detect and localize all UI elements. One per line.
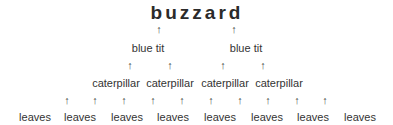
arrow-up-icon: ↑ [237, 95, 243, 106]
node-leaves: leaves [344, 111, 376, 123]
arrow-up-icon: ↑ [64, 95, 70, 106]
arrow-up-icon: ↑ [92, 95, 98, 106]
arrow-up-icon: ↑ [167, 60, 173, 71]
arrow-up-icon: ↑ [220, 60, 226, 71]
node-leaves: leaves [204, 111, 236, 123]
node-caterpillar: caterpillar [146, 77, 194, 89]
arrow-up-icon: ↑ [121, 95, 127, 106]
node-blue-tit: blue tit [132, 42, 164, 54]
arrow-up-icon: ↑ [294, 95, 300, 106]
arrow-up-icon: ↑ [265, 95, 271, 106]
node-leaves: leaves [157, 111, 189, 123]
arrow-up-icon: ↑ [150, 95, 156, 106]
arrow-up-icon: ↑ [231, 24, 237, 35]
arrow-up-icon: ↑ [322, 95, 328, 106]
arrow-up-icon: ↑ [156, 24, 162, 35]
arrow-up-icon: ↑ [179, 95, 185, 106]
arrow-up-icon: ↑ [127, 60, 133, 71]
arrow-up-icon: ↑ [260, 60, 266, 71]
arrow-up-icon: ↑ [208, 95, 214, 106]
node-caterpillar: caterpillar [201, 77, 249, 89]
node-leaves: leaves [251, 111, 283, 123]
node-blue-tit: blue tit [230, 42, 262, 54]
node-leaves: leaves [64, 111, 96, 123]
node-leaves: leaves [19, 111, 51, 123]
node-buzzard: buzzard [151, 3, 244, 23]
node-leaves: leaves [111, 111, 143, 123]
node-leaves: leaves [297, 111, 329, 123]
node-caterpillar: caterpillar [92, 77, 140, 89]
node-caterpillar: caterpillar [255, 77, 303, 89]
